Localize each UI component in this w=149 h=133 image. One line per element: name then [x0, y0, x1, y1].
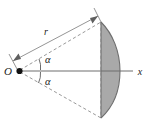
angle-label-lower: α	[45, 76, 51, 87]
origin-point-dot	[16, 68, 22, 74]
figure-background	[0, 0, 149, 133]
angle-label-upper: α	[45, 54, 51, 65]
figure-canvas: O r x α α	[0, 0, 149, 133]
geometry-figure: O r x α α	[0, 0, 149, 133]
x-axis-label: x	[137, 66, 143, 77]
origin-label: O	[4, 65, 12, 77]
radius-label: r	[44, 26, 48, 37]
